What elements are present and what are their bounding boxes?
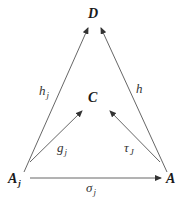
arrow-h: [101, 28, 167, 172]
label-hj: hj: [39, 83, 50, 100]
arrow-tauJ: [110, 111, 160, 162]
label-tauJ: τJ: [124, 140, 135, 157]
node-D: D: [87, 6, 98, 21]
node-C: C: [88, 90, 98, 105]
label-sigmaj: σj: [86, 180, 96, 197]
label-gj: gj: [57, 140, 68, 157]
node-Aj: Aj: [7, 171, 21, 188]
node-A: A: [165, 171, 175, 186]
arrow-hj: [24, 28, 88, 172]
commutative-diagram: D C Aj A hj h gj τJ σj: [0, 0, 186, 197]
arrow-gj: [30, 111, 82, 162]
label-h: h: [136, 81, 143, 96]
